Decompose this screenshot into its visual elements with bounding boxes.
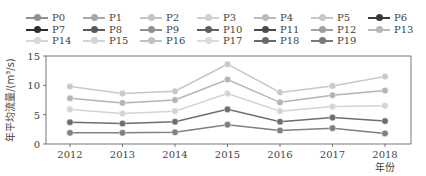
legend-label: P14 <box>52 35 71 46</box>
x-tick-label: 2015 <box>215 149 240 160</box>
legend-label: P16 <box>166 35 185 46</box>
legend-label: P19 <box>337 35 356 46</box>
data-point-marker <box>67 106 74 113</box>
data-point-marker <box>382 103 389 110</box>
legend-marker-icon <box>254 12 276 23</box>
data-point-marker <box>382 130 389 137</box>
legend-item: P1 <box>83 12 122 23</box>
legend-item: P10 <box>197 24 242 35</box>
legend-marker-icon <box>254 35 276 46</box>
legend-marker-icon <box>26 24 48 35</box>
data-point-marker <box>172 88 179 95</box>
legend-marker-icon <box>311 35 333 46</box>
data-point-marker <box>119 100 126 107</box>
legend-label: P7 <box>52 24 65 35</box>
legend-label: P12 <box>337 24 356 35</box>
legend-label: P6 <box>394 12 407 23</box>
legend-marker-icon <box>140 24 162 35</box>
legend-marker-icon <box>197 24 219 35</box>
data-point-marker <box>224 61 231 68</box>
data-point-marker <box>277 118 284 125</box>
legend-marker-icon <box>368 12 390 23</box>
data-point-marker <box>329 125 336 132</box>
legend-label: P4 <box>280 12 293 23</box>
x-tick-label: 2016 <box>267 149 292 160</box>
legend-label: P1 <box>109 12 122 23</box>
x-axis-label: 年份 <box>375 161 395 173</box>
legend-label: P11 <box>280 24 299 35</box>
legend-label: P18 <box>280 35 299 46</box>
data-point-marker <box>382 73 389 80</box>
data-point-marker <box>67 119 74 126</box>
data-point-marker <box>224 121 231 128</box>
legend-item: P8 <box>83 24 122 35</box>
data-point-marker <box>67 83 74 90</box>
legend-item: P4 <box>254 12 293 23</box>
x-tick-label: 2018 <box>372 149 397 160</box>
legend-marker-icon <box>311 24 333 35</box>
data-point-marker <box>119 90 126 97</box>
data-point-marker <box>119 130 126 137</box>
data-point-marker <box>172 108 179 115</box>
data-point-marker <box>382 118 389 125</box>
data-point-marker <box>382 87 389 94</box>
legend-label: P2 <box>166 12 179 23</box>
legend-marker-icon <box>83 12 105 23</box>
legend-item: P3 <box>197 12 236 23</box>
data-point-marker <box>277 127 284 134</box>
legend-label: P9 <box>166 24 179 35</box>
legend-marker-icon <box>26 12 48 23</box>
legend-item: P19 <box>311 35 356 46</box>
legend-label: P8 <box>109 24 122 35</box>
legend-marker-icon <box>83 24 105 35</box>
legend-item: P2 <box>140 12 179 23</box>
legend-item: P7 <box>26 24 65 35</box>
legend-item: P12 <box>311 24 356 35</box>
legend-label: P17 <box>223 35 242 46</box>
y-tick-label: 5 <box>34 110 40 121</box>
legend-label: P13 <box>394 24 413 35</box>
x-tick-label: 2014 <box>162 149 187 160</box>
data-point-marker <box>277 108 284 115</box>
y-axis-label: 年平均流量/(m³/s) <box>4 58 16 142</box>
legend-marker-icon <box>197 35 219 46</box>
data-point-marker <box>172 118 179 125</box>
x-tick-label: 2013 <box>110 149 135 160</box>
data-point-marker <box>67 95 74 102</box>
data-point-marker <box>119 110 126 117</box>
legend-item: P5 <box>311 12 350 23</box>
legend-marker-icon <box>140 12 162 23</box>
data-point-marker <box>172 129 179 136</box>
legend-item: P18 <box>254 35 299 46</box>
legend-label: P3 <box>223 12 236 23</box>
data-point-marker <box>172 97 179 104</box>
legend-marker-icon <box>197 12 219 23</box>
legend-item: P6 <box>368 12 407 23</box>
legend-marker-icon <box>254 24 276 35</box>
data-point-marker <box>329 83 336 90</box>
data-point-marker <box>119 120 126 127</box>
legend-item: P15 <box>83 35 128 46</box>
data-point-marker <box>329 103 336 110</box>
legend-item: P16 <box>140 35 185 46</box>
legend-label: P15 <box>109 35 128 46</box>
legend-item: P9 <box>140 24 179 35</box>
data-point-marker <box>224 90 231 97</box>
legend-item: P14 <box>26 35 71 46</box>
data-point-marker <box>224 106 231 113</box>
legend-label: P5 <box>337 12 350 23</box>
series-layer <box>67 61 389 137</box>
legend-marker-icon <box>311 12 333 23</box>
y-tick-label: 0 <box>34 139 40 150</box>
legend-label: P10 <box>223 24 242 35</box>
legend-item: P13 <box>368 24 413 35</box>
legend-marker-icon <box>83 35 105 46</box>
legend-marker-icon <box>140 35 162 46</box>
legend-item: P17 <box>197 35 242 46</box>
legend-item: P11 <box>254 24 299 35</box>
legend-label: P0 <box>52 12 65 23</box>
data-point-marker <box>277 89 284 96</box>
y-tick-label: 10 <box>27 80 40 91</box>
data-point-marker <box>67 130 74 137</box>
legend-item: P0 <box>26 12 65 23</box>
